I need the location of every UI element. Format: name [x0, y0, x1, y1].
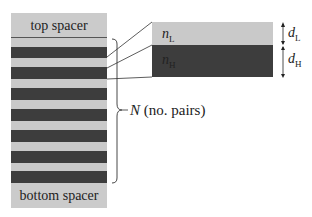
brace-icon — [112, 39, 122, 183]
connector-lines — [0, 0, 312, 217]
